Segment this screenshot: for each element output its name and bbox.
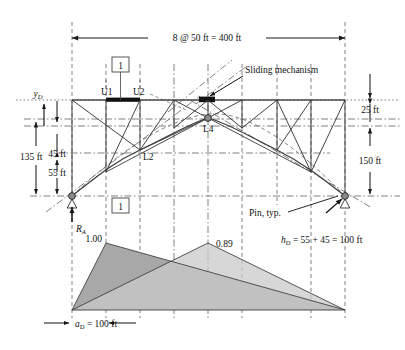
dimension-25ft: 25 ft <box>361 74 379 122</box>
yD-annotation: yD <box>33 89 44 126</box>
reaction-RA: RA <box>72 207 87 235</box>
structural-figure: 8 @ 50 ft = 400 ft <box>0 0 405 350</box>
support-A-triangle <box>67 199 77 208</box>
dimension-135ft: 135 ft <box>20 122 43 194</box>
dimension-25ft-label: 25 ft <box>361 105 379 115</box>
label-L2: L2 <box>143 152 154 162</box>
section-mark-bottom: 1 <box>112 198 129 213</box>
dimension-45ft: 45 ft <box>48 101 66 159</box>
dimension-aD-label: aD = 100 ft <box>75 319 117 330</box>
dimension-135ft-label: 135 ft <box>20 152 43 162</box>
label-L4: L4 <box>203 124 214 134</box>
support-B-arrow <box>326 199 342 213</box>
section-mark-bottom-label: 1 <box>118 202 123 212</box>
influence-peak-left-label: 1.00 <box>85 234 102 244</box>
span-dimension-label: 8 @ 50 ft = 400 ft <box>173 33 242 43</box>
truss-top-chord <box>72 97 345 103</box>
label-U1: U1 <box>101 87 113 97</box>
influence-peak-right-label: 0.89 <box>216 239 233 249</box>
label-U2: U2 <box>133 87 145 97</box>
dimension-45ft-label: 45 ft <box>48 149 66 159</box>
pin-typ-callout: Pin, typ. <box>249 196 338 218</box>
label-yD: yD <box>33 89 43 100</box>
dimension-150ft: 150 ft <box>359 128 382 194</box>
joint-L4 <box>205 115 212 122</box>
section-mark-top-label: 1 <box>118 61 123 71</box>
span-dimension: 8 @ 50 ft = 400 ft <box>72 31 345 44</box>
support-B-triangle <box>340 199 350 208</box>
section-mark-top: 1 <box>112 57 129 100</box>
hD-equation: hD = 55 + 45 = 100 ft <box>281 235 363 246</box>
dimension-55ft-label: 55 ft <box>48 168 66 178</box>
dimension-aD: aD = 100 ft <box>44 319 136 330</box>
dimension-55ft: 55 ft <box>48 160 66 194</box>
construction-lines <box>46 60 372 212</box>
sliding-mechanism-callout: Sliding mechanism <box>210 65 319 96</box>
member-U1-U2-highlight <box>106 98 140 102</box>
sliding-mechanism-label: Sliding mechanism <box>245 65 319 75</box>
influence-line-diagram: 1.00 0.89 <box>72 234 345 310</box>
figure-canvas: 8 @ 50 ft = 400 ft <box>0 0 405 350</box>
pin-typ-label: Pin, typ. <box>249 208 281 218</box>
dimension-150ft-label: 150 ft <box>359 156 382 166</box>
